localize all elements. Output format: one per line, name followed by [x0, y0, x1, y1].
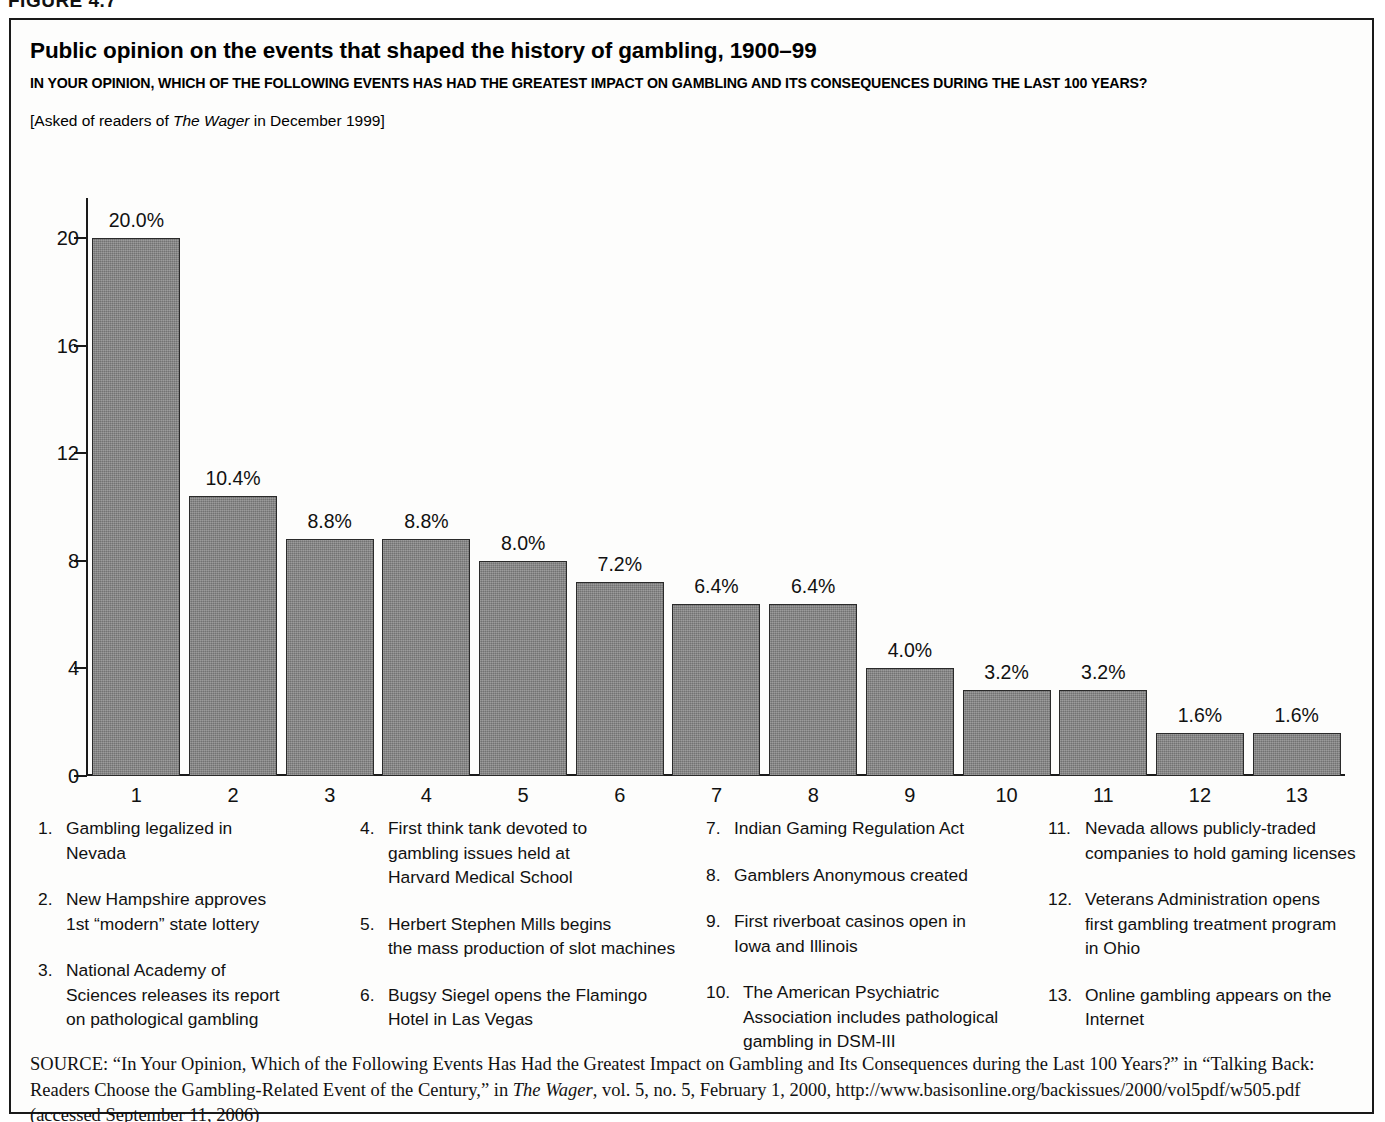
bar-slot: 3.2% [1055, 198, 1152, 776]
legend-item-label: New Hampshire approves [66, 887, 348, 912]
legend-item: 8.Gamblers Anonymous created [706, 863, 1041, 888]
x-tick-label: 5 [475, 784, 571, 807]
legend-item-label: Veterans Administration opens [1085, 887, 1378, 912]
bar[interactable] [576, 582, 664, 776]
x-tick-label: 12 [1152, 784, 1248, 807]
legend-item-label: The American Psychiatric [743, 980, 1041, 1005]
bar-chart-plot: 048121620 20.0%10.4%8.8%8.8%8.0%7.2%6.4%… [30, 170, 1355, 810]
bar[interactable] [189, 496, 277, 776]
bar-slot: 8.0% [475, 198, 572, 776]
y-tick-label: 16 [35, 334, 79, 357]
legend-item: 7.Indian Gaming Regulation Act [706, 816, 1041, 841]
legend-column: 1.Gambling legalized inNevada2.New Hamps… [38, 816, 348, 1054]
bar-value-label: 1.6% [1152, 704, 1249, 727]
x-tick-label: 8 [765, 784, 861, 807]
x-tick-label: 9 [862, 784, 958, 807]
legend-item-label: companies to hold gaming licenses [1085, 841, 1378, 866]
bar[interactable] [92, 238, 180, 776]
y-tick-label: 12 [35, 442, 79, 465]
bar[interactable] [1253, 733, 1341, 776]
bar-value-label: 20.0% [88, 209, 185, 232]
legend-item-number: 13. [1048, 983, 1072, 1008]
legend-column: 11.Nevada allows publicly-tradedcompanie… [1048, 816, 1378, 1054]
legend-item: 11.Nevada allows publicly-tradedcompanie… [1048, 816, 1378, 865]
bar-value-label: 4.0% [862, 639, 959, 662]
bar-value-label: 8.8% [281, 510, 378, 533]
legend-item: 4.First think tank devoted togambling is… [360, 816, 700, 890]
legend-item: 3.National Academy ofSciences releases i… [38, 958, 348, 1032]
legend-item-label: Indian Gaming Regulation Act [734, 816, 1041, 841]
legend-item-label: Nevada allows publicly-traded [1085, 816, 1378, 841]
bar-value-label: 3.2% [958, 661, 1055, 684]
legend-item-number: 5. [360, 912, 375, 937]
bar-value-label: 6.4% [765, 575, 862, 598]
legend-item: 10.The American PsychiatricAssociation i… [706, 980, 1041, 1054]
legend-item-label: Herbert Stephen Mills begins [388, 912, 700, 937]
bar-slot: 3.2% [958, 198, 1055, 776]
legend-item: 12.Veterans Administration opensfirst ga… [1048, 887, 1378, 961]
legend-item-number: 12. [1048, 887, 1072, 912]
legend-item-label: Harvard Medical School [388, 865, 700, 890]
y-tick-label: 8 [35, 549, 79, 572]
bar[interactable] [1059, 690, 1147, 776]
legend-item-label: first gambling treatment program [1085, 912, 1378, 937]
bar[interactable] [963, 690, 1051, 776]
legend-item-label: Association includes pathological [743, 1005, 1041, 1030]
chart-subtitle: IN YOUR OPINION, WHICH OF THE FOLLOWING … [30, 75, 1147, 91]
x-tick-label: 13 [1249, 784, 1345, 807]
legend-item-label: in Ohio [1085, 936, 1378, 961]
legend-item-label: Bugsy Siegel opens the Flamingo [388, 983, 700, 1008]
legend-item-label: First riverboat casinos open in [734, 909, 1041, 934]
bar[interactable] [479, 561, 567, 776]
x-tick-label: 7 [669, 784, 765, 807]
legend-item-number: 2. [38, 887, 53, 912]
legend-item-label: Internet [1085, 1007, 1378, 1032]
bar-slot: 10.4% [185, 198, 282, 776]
legend-item-label: Gamblers Anonymous created [734, 863, 1041, 888]
x-tick-label: 11 [1055, 784, 1151, 807]
bar[interactable] [769, 604, 857, 776]
x-tick-label: 1 [88, 784, 184, 807]
legend-item-label: Nevada [66, 841, 348, 866]
legend-item: 6.Bugsy Siegel opens the FlamingoHotel i… [360, 983, 700, 1032]
bar[interactable] [672, 604, 760, 776]
legend-item-label: National Academy of [66, 958, 348, 983]
x-tick-label: 4 [378, 784, 474, 807]
legend-item-label: Hotel in Las Vegas [388, 1007, 700, 1032]
bar[interactable] [1156, 733, 1244, 776]
legend-item: 13.Online gambling appears on theInterne… [1048, 983, 1378, 1032]
legend-item-number: 3. [38, 958, 53, 983]
x-tick-label: 3 [282, 784, 378, 807]
legend-item-number: 10. [706, 980, 730, 1005]
bar-slot: 6.4% [668, 198, 765, 776]
x-tick-label: 10 [959, 784, 1055, 807]
legend-item-label: the mass production of slot machines [388, 936, 700, 961]
bar-value-label: 3.2% [1055, 661, 1152, 684]
legend-item: 2.New Hampshire approves1st “modern” sta… [38, 887, 348, 936]
legend-column: 7.Indian Gaming Regulation Act8.Gamblers… [706, 816, 1041, 1076]
figure-label: FIGURE 4.7 [8, 0, 116, 12]
legend-item-number: 4. [360, 816, 375, 841]
legend-item-number: 9. [706, 909, 721, 934]
source-kicker: SOURCE: [30, 1054, 108, 1074]
legend-item-label: on pathological gambling [66, 1007, 348, 1032]
bar-slot: 8.8% [378, 198, 475, 776]
bar-slot: 4.0% [862, 198, 959, 776]
bar[interactable] [866, 668, 954, 776]
bar-series: 20.0%10.4%8.8%8.8%8.0%7.2%6.4%6.4%4.0%3.… [88, 198, 1345, 776]
legend-item-label: First think tank devoted to [388, 816, 700, 841]
legend-item-label: Online gambling appears on the [1085, 983, 1378, 1008]
bar[interactable] [286, 539, 374, 776]
legend-item-number: 11. [1048, 816, 1071, 841]
page-title: Public opinion on the events that shaped… [30, 38, 817, 64]
bar-slot: 1.6% [1248, 198, 1345, 776]
bar-value-label: 10.4% [185, 467, 282, 490]
legend-item-label: Gambling legalized in [66, 816, 348, 841]
bar-slot: 6.4% [765, 198, 862, 776]
legend-item: 5.Herbert Stephen Mills beginsthe mass p… [360, 912, 700, 961]
bar[interactable] [382, 539, 470, 776]
legend-item-number: 1. [38, 816, 53, 841]
figure-box: Public opinion on the events that shaped… [9, 18, 1374, 1114]
asked-suffix: in December 1999] [249, 112, 384, 129]
legend-item: 9.First riverboat casinos open inIowa an… [706, 909, 1041, 958]
